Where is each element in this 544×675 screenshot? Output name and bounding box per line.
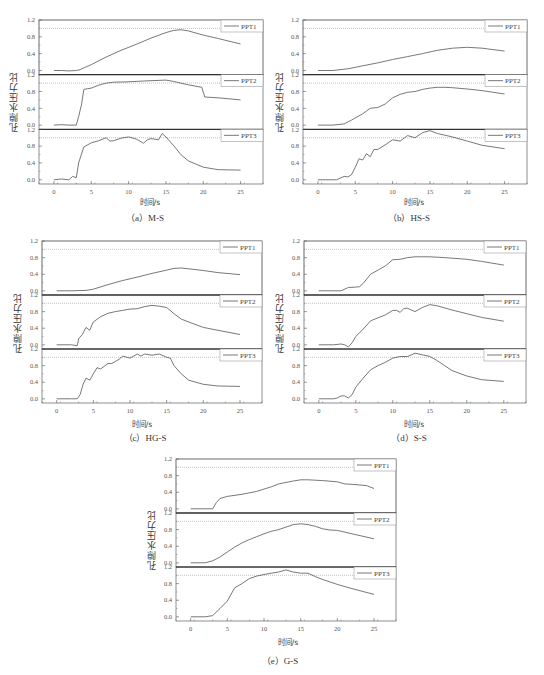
y-axis-label-b: 孔隙水压力比 [272,72,285,132]
y-tick-label: 0.8 [164,526,172,533]
x-tick-label: 20 [334,625,341,632]
y-tick-label: 0.0 [164,613,172,620]
series-line-ppt3 [191,570,374,617]
caption-d: （d）S-S [364,431,454,444]
y-axis-label-d: 孔隙水压力比 [272,293,285,353]
y-axis-label-e: 孔隙水压力比 [144,510,157,570]
x-tick-label: 0 [189,625,192,632]
y-tick-label: 1.2 [164,563,172,570]
caption-b: （b）HS-S [364,211,454,224]
y-tick-label: 1.2 [164,455,172,462]
y-tick-label: 0.8 [164,580,172,587]
caption-c: （c）HG-S [105,431,185,444]
y-axis-label-a: 孔隙水压力比 [6,72,19,132]
y-tick-label: 0.4 [164,596,173,603]
x-axis-label-c: 时间/s [122,418,162,429]
x-axis-label-d: 时间/s [394,418,434,429]
caption-e: （e）G-S [240,654,320,667]
x-tick-label: 25 [371,625,378,632]
y-tick-label: 0.4 [164,542,173,549]
x-tick-label: 10 [261,625,268,632]
legend-label: PPT2 [374,516,390,524]
x-tick-label: 5 [226,625,229,632]
x-axis-label-a: 时间/s [130,196,170,207]
series-line-ppt1 [191,480,374,509]
series-line-ppt2 [191,524,374,563]
caption-a: （a）M-S [105,211,185,224]
legend-label: PPT3 [374,570,390,578]
x-tick-label: 15 [297,625,304,632]
legend-label: PPT1 [374,462,390,470]
y-tick-label: 0.4 [164,488,173,495]
y-tick-label: 1.2 [164,509,172,516]
y-tick-label: 0.8 [164,472,172,479]
x-axis-label-b: 时间/s [394,196,434,207]
x-axis-label-e: 时间/s [268,636,308,647]
y-axis-label-c: 孔隙水压力比 [10,293,23,353]
